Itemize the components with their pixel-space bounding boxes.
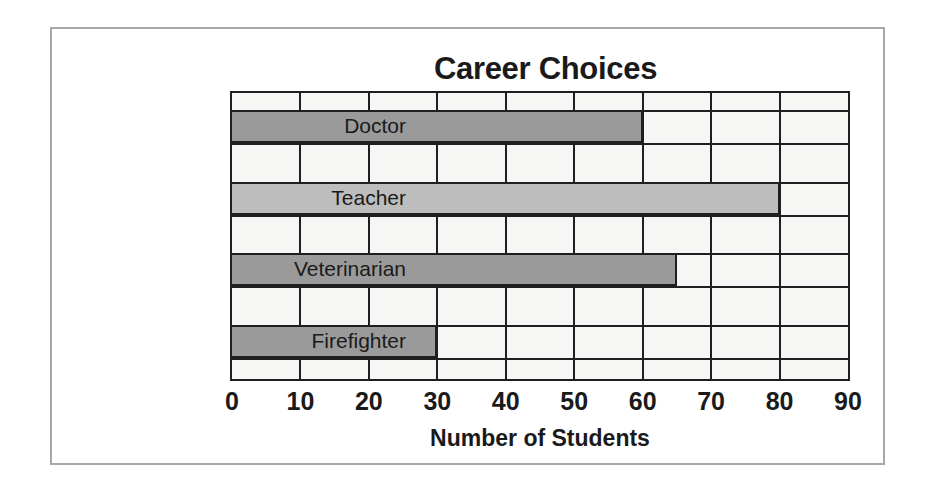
x-tick-50: 50 (544, 387, 604, 416)
chart-title-text: Career Choices (434, 51, 657, 87)
gridline-80 (779, 93, 781, 379)
x-axis-tick-labels: 0102030405060708090 (230, 387, 850, 421)
x-tick-90: 90 (818, 387, 878, 416)
category-label-firefighter: Firefighter (216, 329, 406, 353)
figure-page: Career Choices DoctorTeacherVeterinarian… (0, 0, 932, 490)
x-tick-60: 60 (613, 387, 673, 416)
plot-area: DoctorTeacherVeterinarianFirefighter (230, 91, 850, 381)
x-tick-30: 30 (407, 387, 467, 416)
x-tick-80: 80 (750, 387, 810, 416)
category-label-veterinarian: Veterinarian (216, 257, 406, 281)
x-tick-20: 20 (339, 387, 399, 416)
x-axis-title: Number of Students (230, 425, 850, 452)
x-tick-40: 40 (476, 387, 536, 416)
gridline-70 (710, 93, 712, 379)
x-tick-70: 70 (681, 387, 741, 416)
figure-frame: Career Choices DoctorTeacherVeterinarian… (50, 27, 885, 465)
category-axis-labels: DoctorTeacherVeterinarianFirefighter (216, 93, 406, 383)
category-label-doctor: Doctor (216, 114, 406, 138)
x-tick-0: 0 (202, 387, 262, 416)
category-label-teacher: Teacher (216, 186, 406, 210)
chart-title: Career Choices (52, 51, 887, 87)
x-tick-10: 10 (270, 387, 330, 416)
